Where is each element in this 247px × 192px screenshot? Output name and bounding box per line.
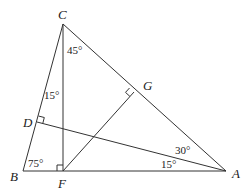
angle-abc: 75°: [28, 157, 43, 169]
right-angle-g: [126, 88, 130, 96]
label-f: F: [57, 176, 67, 191]
segment-ad: [37, 122, 226, 171]
label-d: D: [22, 115, 33, 130]
label-g: G: [143, 78, 153, 93]
side-ca: [63, 24, 226, 171]
right-angle-f: [57, 165, 63, 171]
triangle-diagram: C B F A D G 45° 15° 75° 30° 15°: [0, 0, 247, 192]
label-b: B: [10, 169, 18, 184]
angle-dab: 15°: [161, 158, 176, 170]
angle-bcf: 15°: [44, 89, 59, 101]
label-c: C: [58, 7, 67, 22]
label-a: A: [231, 166, 240, 181]
angle-cad: 30°: [175, 144, 190, 156]
angle-acf: 45°: [67, 44, 82, 56]
